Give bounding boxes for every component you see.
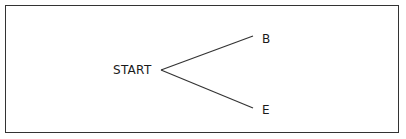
edges-layer	[0, 0, 406, 139]
node-b: B	[262, 33, 271, 45]
edge-start-e	[161, 70, 253, 108]
node-e: E	[262, 104, 270, 116]
edge-start-b	[161, 36, 253, 70]
node-start: START	[113, 64, 152, 76]
